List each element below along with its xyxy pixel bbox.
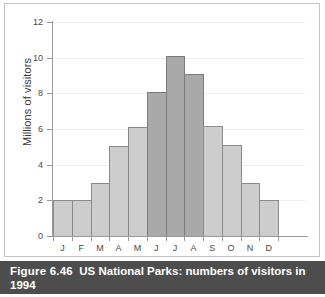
x-axis-label-may: M: [127, 243, 147, 253]
x-axis-tick: [109, 237, 110, 241]
y-axis-line: [52, 21, 53, 237]
x-axis-tick: [53, 237, 54, 241]
chart-frame: Millions of visitors 024681012 JFMAMJJAS…: [4, 3, 320, 257]
bar-october: [222, 145, 242, 236]
x-axis-label-december: D: [259, 243, 279, 253]
y-axis-tick: [47, 22, 52, 23]
y-axis-tick-label: 0: [17, 231, 43, 241]
x-axis-label-april: A: [109, 243, 129, 253]
x-axis-tick: [259, 237, 260, 241]
y-axis-tick-label: 2: [17, 195, 43, 205]
x-axis-tick: [184, 237, 185, 241]
y-axis-tick: [47, 165, 52, 166]
x-axis-tick: [222, 237, 223, 241]
caption-number: Figure 6.46: [10, 265, 73, 277]
x-axis-label-june: J: [146, 243, 166, 253]
figure-caption: Figure 6.46 US National Parks: numbers o…: [0, 261, 325, 294]
bar-july: [166, 56, 186, 236]
bar-april: [109, 146, 129, 236]
x-axis-tick: [241, 237, 242, 241]
x-axis-label-august: A: [184, 243, 204, 253]
bar-august: [184, 74, 204, 236]
x-axis-tick: [203, 237, 204, 241]
figure-container: Millions of visitors 024681012 JFMAMJJAS…: [0, 0, 325, 297]
x-axis-tick: [166, 237, 167, 241]
x-axis-label-march: M: [90, 243, 110, 253]
bar-march: [91, 183, 111, 237]
y-axis-tick: [47, 93, 52, 94]
y-axis-tick-label: 8: [17, 88, 43, 98]
x-axis-tick: [128, 237, 129, 241]
bar-may: [128, 127, 148, 236]
x-axis-tick: [72, 237, 73, 241]
x-axis-tick: [278, 237, 279, 241]
bar-february: [72, 200, 92, 236]
x-axis-label-february: F: [71, 243, 91, 253]
bar-december: [259, 200, 279, 236]
y-axis-tick: [47, 236, 52, 237]
x-axis-tick: [91, 237, 92, 241]
x-axis-tick: [147, 237, 148, 241]
y-axis-tick-label: 6: [17, 124, 43, 134]
bar-series: [53, 22, 278, 236]
x-axis-label-october: O: [221, 243, 241, 253]
y-axis-tick-label: 12: [17, 17, 43, 27]
bar-november: [241, 183, 261, 237]
y-axis-tick: [47, 58, 52, 59]
x-axis-label-november: N: [240, 243, 260, 253]
x-axis-label-september: S: [202, 243, 222, 253]
y-axis-tick: [47, 200, 52, 201]
bar-january: [53, 200, 73, 236]
y-axis-tick-label: 10: [17, 53, 43, 63]
bar-june: [147, 92, 167, 236]
y-axis-tick: [47, 129, 52, 130]
x-axis-label-january: J: [52, 243, 72, 253]
x-axis-label-july: J: [165, 243, 185, 253]
bar-september: [203, 126, 223, 236]
y-axis-tick-label: 4: [17, 160, 43, 170]
plot-area: [53, 22, 305, 236]
